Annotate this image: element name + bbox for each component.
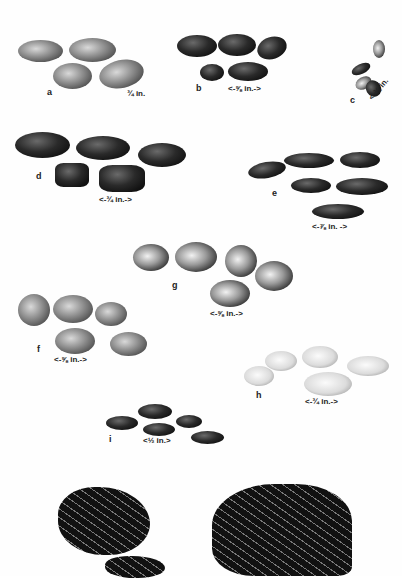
group-label-c: c bbox=[350, 95, 355, 105]
pellet bbox=[304, 372, 352, 396]
pellet bbox=[97, 56, 147, 93]
pellet bbox=[55, 163, 89, 187]
pellet bbox=[76, 136, 130, 160]
pellet bbox=[15, 132, 70, 158]
group-label-e: e bbox=[272, 188, 277, 198]
group-label-g: g bbox=[172, 280, 178, 290]
pellet bbox=[143, 423, 175, 436]
pellet-mass-right bbox=[212, 484, 352, 576]
pellet bbox=[302, 346, 338, 368]
pellet bbox=[191, 431, 224, 444]
scale-label-e: <-⅞ in. -> bbox=[312, 222, 347, 231]
pellet bbox=[53, 295, 93, 323]
pellet bbox=[177, 35, 217, 57]
pellet bbox=[340, 152, 380, 168]
pellet bbox=[373, 40, 385, 58]
pellet bbox=[265, 351, 297, 371]
pellet bbox=[254, 33, 289, 63]
scale-label-h: <-¾ in.-> bbox=[305, 397, 338, 406]
group-label-f: f bbox=[37, 344, 40, 354]
pellet bbox=[312, 204, 364, 219]
pellet bbox=[138, 404, 172, 419]
pellet bbox=[176, 415, 202, 428]
pellet bbox=[133, 244, 169, 271]
group-label-b: b bbox=[196, 83, 202, 93]
pellet bbox=[244, 366, 274, 386]
scale-label-i: <½ in.> bbox=[143, 436, 171, 445]
pellet bbox=[69, 38, 116, 62]
pellet bbox=[347, 356, 389, 376]
pellet bbox=[200, 64, 224, 81]
pellet bbox=[247, 159, 287, 181]
pellet bbox=[106, 416, 138, 430]
pellet bbox=[336, 178, 388, 195]
pellet bbox=[350, 60, 372, 78]
pellet bbox=[138, 143, 186, 167]
pellet bbox=[18, 40, 63, 62]
group-label-d: d bbox=[36, 171, 42, 181]
scale-label-b: <-⅝ in.-> bbox=[228, 84, 261, 93]
pellet-mass-left bbox=[58, 487, 150, 555]
scale-label-a: ¾ in. bbox=[127, 89, 145, 98]
pellet bbox=[225, 245, 257, 277]
scale-label-f: <-⅝ in.-> bbox=[54, 355, 87, 364]
group-label-a: a bbox=[47, 87, 52, 97]
scale-label-g: <-⅝ in.-> bbox=[210, 309, 243, 318]
pellet bbox=[55, 328, 95, 354]
group-label-h: h bbox=[256, 390, 262, 400]
pellet bbox=[95, 302, 127, 326]
pellet bbox=[99, 165, 145, 192]
pellet bbox=[210, 280, 250, 307]
pellet bbox=[110, 332, 147, 356]
pellet bbox=[53, 63, 92, 89]
pellet bbox=[255, 261, 293, 291]
pellet bbox=[218, 34, 256, 56]
pellet-mass-left-lower bbox=[105, 556, 165, 578]
group-label-i: i bbox=[109, 434, 112, 444]
pellet bbox=[284, 153, 334, 168]
pellet bbox=[291, 178, 331, 193]
pellet bbox=[228, 62, 268, 81]
scale-label-d: <-¾ in.-> bbox=[99, 195, 132, 204]
pellet bbox=[175, 242, 217, 272]
pellet bbox=[18, 294, 50, 326]
